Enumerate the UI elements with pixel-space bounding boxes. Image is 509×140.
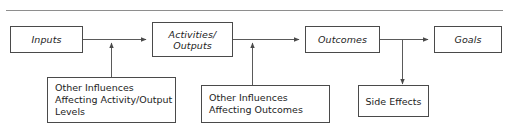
node-inputs[interactable]: Inputs xyxy=(10,26,83,53)
node-other-influences-outcomes-label: Other Influences Affecting Outcomes xyxy=(209,92,303,116)
node-inputs-label: Inputs xyxy=(31,34,61,45)
node-outcomes-label: Outcomes xyxy=(318,34,367,45)
node-other-influences-outcomes[interactable]: Other Influences Affecting Outcomes xyxy=(201,85,330,123)
cut-off-title xyxy=(120,0,500,5)
node-other-influences-activity[interactable]: Other Influences Affecting Activity/Outp… xyxy=(47,77,176,123)
logic-model-diagram: Inputs Activities/ Outputs Outcomes Goal… xyxy=(0,0,509,140)
node-activities-outputs-label: Activities/ Outputs xyxy=(169,29,217,51)
node-side-effects[interactable]: Side Effects xyxy=(358,85,429,117)
node-goals[interactable]: Goals xyxy=(434,26,502,53)
node-other-influences-activity-label: Other Influences Affecting Activity/Outp… xyxy=(55,82,172,118)
node-outcomes[interactable]: Outcomes xyxy=(305,26,380,53)
header-divider xyxy=(6,10,503,11)
node-side-effects-label: Side Effects xyxy=(366,96,422,107)
node-goals-label: Goals xyxy=(454,34,481,45)
node-activities-outputs[interactable]: Activities/ Outputs xyxy=(152,22,233,57)
